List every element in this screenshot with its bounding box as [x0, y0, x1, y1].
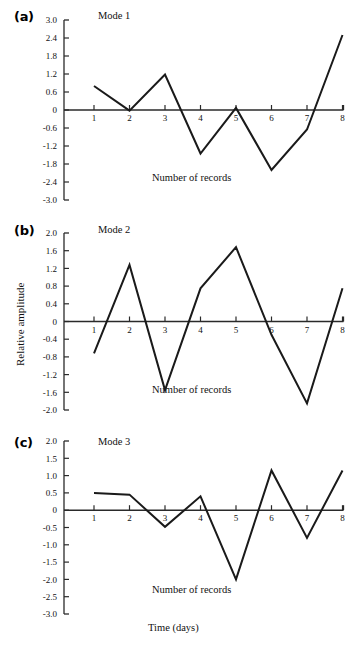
- chart-svg-c: 2.01.51.00.50-0.5-1.0-1.5-2.0-2.5-3.0123…: [0, 426, 359, 647]
- y-tick-label: 0.5: [46, 488, 58, 498]
- y-tick-label: -1.6: [43, 388, 58, 398]
- y-tick-label: 1.2: [46, 264, 57, 274]
- y-tick-label: 1.8: [46, 51, 58, 61]
- y-tick-label: 3.0: [46, 15, 58, 25]
- chart-svg-a: 3.02.41.81.20.60-0.6-1.2-1.8-2.4-3.01234…: [0, 0, 359, 214]
- y-tick-label: -1.2: [43, 141, 57, 151]
- x-tick-label: 8: [340, 325, 345, 335]
- x-tick-label: 5: [234, 513, 239, 523]
- y-tick-label: -1.5: [43, 557, 58, 567]
- y-tick-label: -1.2: [43, 370, 57, 380]
- y-tick-label: -2.4: [43, 177, 58, 187]
- x-tick-label: 6: [269, 513, 274, 523]
- data-series-line: [94, 35, 343, 170]
- y-tick-label: 1.2: [46, 69, 57, 79]
- x-tick-label: 4: [198, 113, 203, 123]
- y-tick-label: 0: [53, 505, 58, 515]
- y-tick-label: 0: [53, 317, 58, 327]
- y-tick-label: -2.5: [43, 592, 58, 602]
- figure-container: (a) Mode 1 Number of records 3.02.41.81.…: [0, 0, 359, 647]
- y-tick-label: -3.0: [43, 609, 58, 619]
- y-tick-label: 2.0: [46, 228, 58, 238]
- x-tick-label: 2: [127, 113, 132, 123]
- y-tick-label: 2.0: [46, 436, 58, 446]
- y-tick-label: 0.8: [46, 281, 58, 291]
- x-tick-label: 4: [198, 513, 203, 523]
- x-tick-label: 1: [92, 513, 97, 523]
- x-tick-label: 2: [127, 513, 132, 523]
- y-tick-label: -0.8: [43, 352, 58, 362]
- chart-panel-a: (a) Mode 1 Number of records 3.02.41.81.…: [0, 0, 359, 214]
- y-tick-label: 0.6: [46, 87, 58, 97]
- x-tick-label: 5: [234, 113, 239, 123]
- x-tick-label: 5: [234, 325, 239, 335]
- y-tick-label: -1.0: [43, 540, 58, 550]
- y-tick-label: -0.4: [43, 334, 58, 344]
- y-tick-label: 2.4: [46, 33, 58, 43]
- x-tick-label: 8: [340, 513, 345, 523]
- x-tick-label: 4: [198, 325, 203, 335]
- y-tick-label: -3.0: [43, 195, 58, 205]
- y-tick-label: 0.4: [46, 299, 58, 309]
- x-tick-label: 2: [127, 325, 132, 335]
- y-tick-label: -2.0: [43, 575, 58, 585]
- x-tick-label: 8: [340, 113, 345, 123]
- x-tick-label: 3: [163, 513, 168, 523]
- y-tick-label: -2.0: [43, 405, 58, 415]
- chart-panel-b: (b) Mode 2 Relative amplitude Number of …: [0, 214, 359, 426]
- data-series-line: [94, 470, 343, 579]
- x-tick-label: 3: [163, 325, 168, 335]
- y-tick-label: 0: [53, 105, 58, 115]
- y-tick-label: 1.0: [46, 471, 58, 481]
- x-tick-label: 7: [305, 513, 310, 523]
- y-tick-label: -1.8: [43, 159, 58, 169]
- x-tick-label: 1: [92, 113, 97, 123]
- x-tick-label: 3: [163, 113, 168, 123]
- chart-svg-b: 2.01.61.20.80.40-0.4-0.8-1.2-1.6-2.01234…: [0, 214, 359, 426]
- x-tick-label: 7: [305, 325, 310, 335]
- x-tick-label: 1: [92, 325, 97, 335]
- chart-panel-c: (c) Mode 3 Number of records Time (days)…: [0, 426, 359, 647]
- y-tick-label: 1.6: [46, 246, 58, 256]
- y-tick-label: 1.5: [46, 454, 58, 464]
- y-tick-label: -0.6: [43, 123, 58, 133]
- x-tick-label: 6: [269, 113, 274, 123]
- y-tick-label: -0.5: [43, 523, 58, 533]
